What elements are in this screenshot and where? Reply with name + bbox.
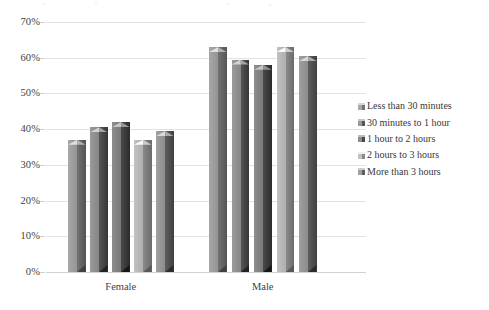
- legend-swatch-icon: [358, 152, 365, 159]
- chart-legend: Less than 30 minutes30 minutes to 1 hour…: [358, 98, 489, 180]
- y-axis-tick-label: 60%: [0, 53, 40, 64]
- bar: [68, 140, 86, 272]
- bar-face-right: [121, 122, 129, 272]
- bar-chart: 70%60%50%40%30%20%10%0% FemaleMale Less …: [0, 0, 489, 310]
- legend-swatch-icon: [358, 103, 365, 110]
- gridline: [46, 58, 366, 59]
- y-axis-tick-label: 40%: [0, 124, 40, 135]
- bar-face-left: [134, 140, 143, 272]
- legend-item: Less than 30 minutes: [358, 98, 489, 114]
- legend-item: 1 hour to 2 hours: [358, 131, 489, 147]
- bar-face-left: [112, 122, 121, 272]
- gridline: [46, 93, 366, 94]
- y-axis-tick-label: 70%: [0, 17, 40, 28]
- bar-face-right: [263, 65, 271, 272]
- y-axis-tick-mark: [40, 272, 45, 273]
- bar-face-right: [99, 127, 107, 272]
- bar-face-left: [90, 127, 99, 272]
- bar-face-left: [232, 60, 241, 273]
- x-axis-category-label: Male: [223, 282, 303, 293]
- bar-face-right: [308, 56, 316, 272]
- bar: [299, 56, 317, 272]
- legend-item-label: 30 minutes to 1 hour: [367, 118, 450, 128]
- legend-item-label: More than 3 hours: [367, 167, 441, 177]
- bar-face-left: [68, 140, 77, 272]
- bar-face-right: [165, 131, 173, 272]
- y-axis-tick-mark: [40, 129, 45, 130]
- y-axis-tick-label: 0%: [0, 267, 40, 278]
- x-axis-category-label: Female: [81, 282, 161, 293]
- plot-area: [46, 22, 366, 272]
- legend-item-label: 2 hours to 3 hours: [367, 150, 439, 160]
- scan-noise: [0, 0, 489, 12]
- y-axis-tick-mark: [40, 201, 45, 202]
- legend-swatch-icon: [358, 119, 365, 126]
- y-axis-tick-mark: [40, 165, 45, 166]
- y-axis-tick-mark: [40, 236, 45, 237]
- y-axis-tick-mark: [40, 22, 45, 23]
- bar: [90, 127, 108, 272]
- legend-item: 30 minutes to 1 hour: [358, 114, 489, 130]
- legend-item: 2 hours to 3 hours: [358, 147, 489, 163]
- bar-face-left: [254, 65, 263, 272]
- legend-swatch-icon: [358, 168, 365, 175]
- y-axis-tick-mark: [40, 58, 45, 59]
- legend-item-label: 1 hour to 2 hours: [367, 134, 435, 144]
- bar-face-left: [277, 47, 286, 272]
- bar: [254, 65, 272, 272]
- bar-face-left: [156, 131, 165, 272]
- bar: [112, 122, 130, 272]
- bar-face-right: [218, 47, 226, 272]
- gridline: [46, 22, 366, 23]
- bar: [156, 131, 174, 272]
- bar-face-left: [209, 47, 218, 272]
- y-axis-tick-label: 20%: [0, 196, 40, 207]
- bar-face-right: [241, 60, 249, 273]
- y-axis-tick-label: 30%: [0, 160, 40, 171]
- bar: [232, 60, 250, 273]
- bar-face-right: [143, 140, 151, 272]
- y-axis-tick-mark: [40, 93, 45, 94]
- gridline: [46, 272, 366, 273]
- y-axis-tick-label: 50%: [0, 88, 40, 99]
- bar-face-left: [299, 56, 308, 272]
- bar-face-right: [286, 47, 294, 272]
- bar: [277, 47, 295, 272]
- bar: [209, 47, 227, 272]
- y-axis-tick-label: 10%: [0, 231, 40, 242]
- bar: [134, 140, 152, 272]
- legend-swatch-icon: [358, 135, 365, 142]
- bar-face-right: [77, 140, 85, 272]
- legend-item: More than 3 hours: [358, 164, 489, 180]
- legend-item-label: Less than 30 minutes: [367, 101, 452, 111]
